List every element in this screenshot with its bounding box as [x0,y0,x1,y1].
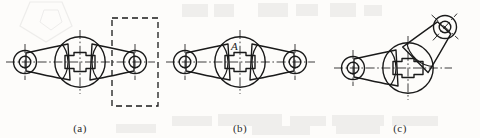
rotated-right-arm-group [401,16,457,73]
figure-a [0,2,160,122]
left-arm-web [26,44,70,80]
figure-b: A [160,2,320,122]
centerline-group [166,30,315,94]
caption-figure-a: (a) [0,122,160,134]
figure-c [320,2,480,122]
left-arm-web [354,50,398,86]
left-arm-web [186,44,230,80]
right-arm-web-rotated [401,16,457,73]
reference-letter-a: A [230,40,238,52]
centerline-group [6,30,155,94]
rotated-boss-centerline-2 [432,15,459,39]
drawing-page: A [0,0,480,138]
caption-figure-b: (b) [160,122,320,134]
caption-figure-c: (c) [320,122,480,134]
